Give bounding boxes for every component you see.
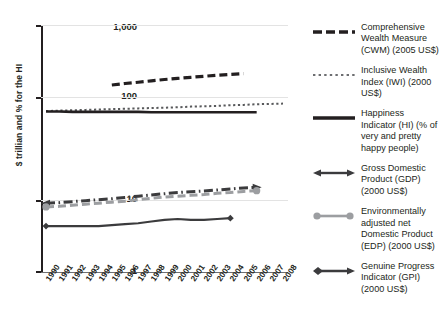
series-diamond-start-gpi — [43, 223, 50, 230]
series-line-iwi — [46, 104, 283, 111]
dashed-line-icon — [313, 24, 355, 36]
legend-item-hi[interactable]: Happiness Indicator (HI) (% of very and … — [313, 108, 441, 154]
double-arrow-line-icon — [313, 165, 355, 177]
legend-label-iwi: Inclusive Wealth Index (IWI) (2000 US$) — [361, 65, 441, 99]
diamond-arrow-line-icon — [313, 263, 355, 275]
chart-legend: Comprehensive Wealth Measure (CWM) (2005… — [313, 22, 441, 304]
series-dot-start-edp — [42, 203, 49, 210]
legend-label-cwm: Comprehensive Wealth Measure (CWM) (2005… — [361, 22, 441, 56]
legend-item-gpi[interactable]: Genuine Progress Indicator (GPI) (2000 U… — [313, 261, 441, 295]
legend-label-gpi: Genuine Progress Indicator (GPI) (2000 U… — [361, 261, 441, 295]
legend-item-iwi[interactable]: Inclusive Wealth Index (IWI) (2000 US$) — [313, 65, 441, 99]
series-line-cwm — [112, 74, 244, 85]
series-line-edp — [46, 191, 257, 207]
legend-label-edp: Environmentally adjusted net Domestic Pr… — [361, 206, 441, 252]
series-line-gpi — [46, 218, 230, 226]
series-diamond-end-gpi — [227, 215, 234, 222]
series-line-hi — [46, 111, 257, 112]
series-line-gdp — [46, 187, 257, 203]
legend-item-cwm[interactable]: Comprehensive Wealth Measure (CWM) (2005… — [313, 22, 441, 56]
legend-label-gdp: Gross Domestic Product (GDP) (2000 US$) — [361, 163, 441, 197]
chart-figure: $ trillian and % for the HI 1,000 100 10… — [0, 0, 442, 333]
dotted-line-icon — [313, 67, 355, 79]
legend-item-edp[interactable]: Environmentally adjusted net Domestic Pr… — [313, 206, 441, 252]
y-axis-title: $ trillian and % for the HI — [14, 45, 24, 185]
grey-dot-line-icon — [313, 208, 355, 220]
legend-label-hi: Happiness Indicator (HI) (% of very and … — [361, 108, 441, 154]
solid-line-icon — [313, 110, 355, 122]
legend-item-gdp[interactable]: Gross Domestic Product (GDP) (2000 US$) — [313, 163, 441, 197]
series-layer — [41, 25, 288, 273]
series-dot-end-edp — [253, 187, 260, 194]
